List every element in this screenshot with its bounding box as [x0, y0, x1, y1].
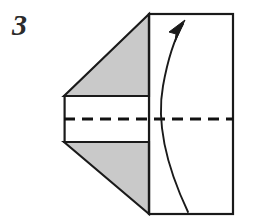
origami-diagram-svg: [0, 0, 259, 224]
lower-flap-shape: [64, 142, 149, 214]
origami-step-figure: 3: [0, 0, 259, 224]
upper-flap-shape: [64, 14, 149, 96]
